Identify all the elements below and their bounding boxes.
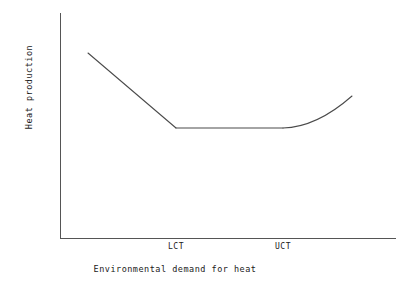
chart-container: LCT UCT Environmental demand for heat He…: [0, 0, 413, 289]
y-axis-title: Heat production: [24, 37, 34, 137]
curve-segment-above-uct: [283, 96, 352, 128]
x-tick-label-lct: LCT: [155, 242, 197, 251]
curve-segment-below-lct: [88, 53, 176, 128]
x-axis-title: Environmental demand for heat: [0, 264, 350, 274]
chart-plot-area: [0, 0, 413, 289]
x-tick-label-uct: UCT: [262, 242, 304, 251]
